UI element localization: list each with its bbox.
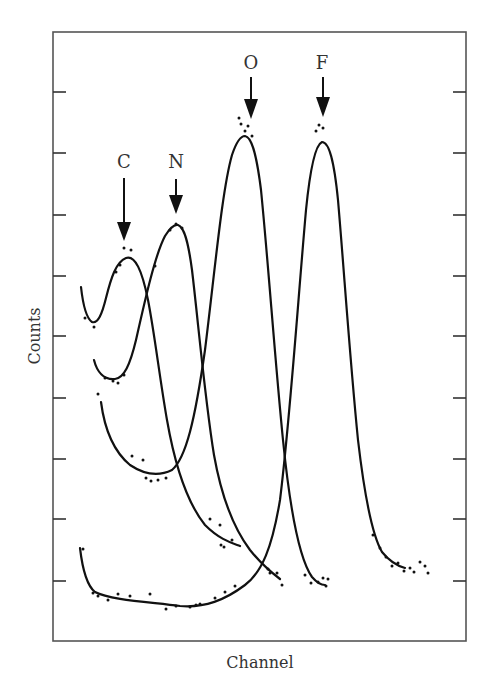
peak-label-c: C xyxy=(117,151,131,172)
y-axis-label: Counts xyxy=(25,307,44,364)
peak-label-o: O xyxy=(244,52,259,73)
x-axis-label: Channel xyxy=(226,653,293,672)
peak-label-n: N xyxy=(168,151,184,172)
right-axis-ticks xyxy=(453,92,466,581)
curve-n xyxy=(94,225,280,579)
arrow-n-icon xyxy=(169,179,183,214)
curve-f xyxy=(80,142,405,606)
left-axis-ticks xyxy=(53,92,66,581)
arrow-f-icon xyxy=(316,77,330,117)
peak-label-f: F xyxy=(316,52,329,73)
data-points xyxy=(82,117,430,611)
arrow-o-icon xyxy=(244,77,258,119)
arrow-c-icon xyxy=(117,178,131,241)
curve-o xyxy=(101,136,325,585)
spectrum-chart: C N O F Channel Counts xyxy=(0,0,490,697)
plot-frame xyxy=(53,32,466,641)
curve-c xyxy=(81,258,240,546)
